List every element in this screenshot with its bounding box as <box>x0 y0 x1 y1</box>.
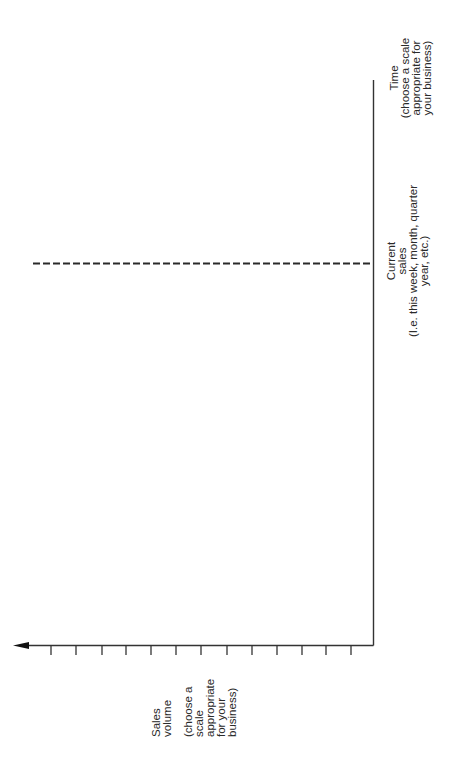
blank-sales-chart <box>0 0 453 761</box>
sales-volume-label: Sales volume (choose a scale appropriate… <box>151 657 238 737</box>
sales-volume-ticks <box>51 646 351 656</box>
current-sales-label: Current sales (I.e. this week, month, qu… <box>386 171 430 351</box>
time-axis-label: Time (choose a scale appropriate for you… <box>389 10 433 146</box>
y-axis-note-line: business) <box>227 657 238 737</box>
current-sales-line: year, etc.) <box>419 171 430 351</box>
axis-arrowhead-icon <box>13 642 29 649</box>
x-axis-note-line: your business) <box>422 10 433 146</box>
y-axis-title-line: volume <box>162 657 173 737</box>
